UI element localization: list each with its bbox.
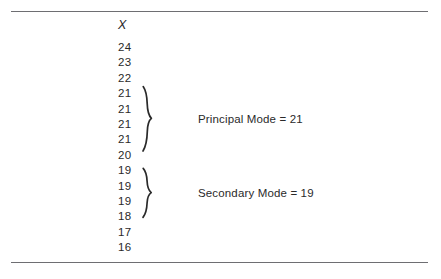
value-cell: 23 [118,55,144,70]
value-cell: 22 [118,71,144,86]
bottom-rule [11,262,428,263]
value-cell: 17 [118,225,144,240]
top-rule [11,11,428,12]
curly-brace-icon [140,85,156,153]
curly-brace-icon [140,167,156,219]
value-cell: 24 [118,40,144,55]
mode-illustration-figure: X 24 23 22 21 21 21 21 20 19 19 19 18 17… [0,0,441,279]
secondary-mode-annotation: Secondary Mode = 19 [198,186,314,200]
value-cell: 16 [118,240,144,255]
principal-mode-annotation: Principal Mode = 21 [198,112,303,126]
column-header-x: X [118,18,127,32]
